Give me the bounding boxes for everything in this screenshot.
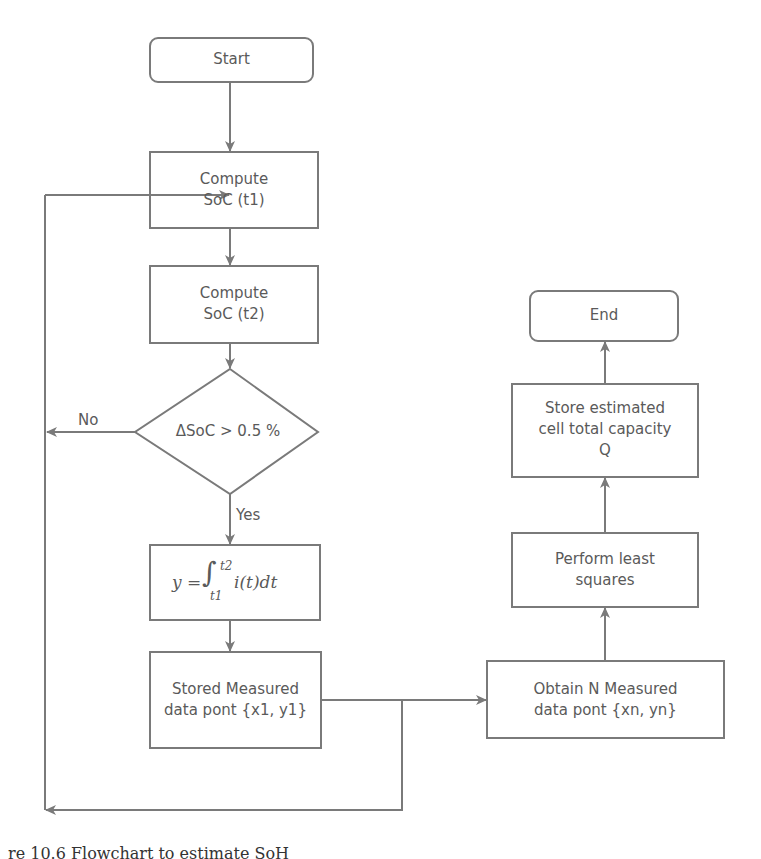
integral-node: y = ∫ t2 t1 i(t)dt (150, 562, 320, 602)
figure-caption: re 10.6 Flowchart to estimate SoH (8, 844, 289, 859)
compute-t1-line2: SoC (t1) (150, 190, 318, 211)
integral-body: i(t)dt (234, 572, 277, 593)
edge-label-yes: Yes (236, 506, 260, 524)
obtain-line2: data pont {xn, yn} (487, 700, 724, 721)
stored-line2: data pont {x1, y1} (150, 700, 321, 721)
integral-sign: ∫ (202, 562, 217, 583)
store-capacity-line2: cell total capacity (512, 419, 698, 440)
compute-t2-line2: SoC (t2) (150, 304, 318, 325)
compute-soc-t2-node: Compute SoC (t2) (150, 283, 318, 325)
integral-lhs: y = (172, 572, 201, 593)
end-node: End (530, 305, 678, 326)
start-label: Start (213, 50, 250, 68)
integral-lower-limit: t1 (210, 586, 222, 607)
compute-t1-line1: Compute (150, 169, 318, 190)
least-squares-line1: Perform least (512, 549, 698, 570)
store-capacity-line1: Store estimated (512, 398, 698, 419)
start-node: Start (150, 49, 313, 70)
integral-upper-limit: t2 (220, 556, 232, 577)
store-capacity-node: Store estimated cell total capacity Q (512, 398, 698, 461)
stored-line1: Stored Measured (150, 679, 321, 700)
end-label: End (590, 306, 619, 324)
compute-t2-line1: Compute (150, 283, 318, 304)
obtain-n-node: Obtain N Measured data pont {xn, yn} (487, 679, 724, 721)
decision-label: ΔSoC > 0.5 % (176, 422, 280, 440)
least-squares-node: Perform least squares (512, 549, 698, 591)
least-squares-line2: squares (512, 570, 698, 591)
stored-measured-node: Stored Measured data pont {x1, y1} (150, 679, 321, 721)
store-capacity-line3: Q (512, 440, 698, 461)
obtain-line1: Obtain N Measured (487, 679, 724, 700)
edge-label-no: No (78, 411, 98, 429)
compute-soc-t1-node: Compute SoC (t1) (150, 169, 318, 211)
decision-node: ΔSoC > 0.5 % (140, 421, 316, 442)
